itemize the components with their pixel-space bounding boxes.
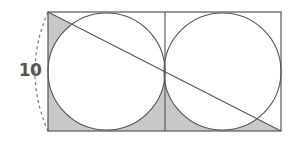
geometry-diagram: 10 bbox=[0, 0, 298, 146]
side-length-label: 10 bbox=[12, 60, 48, 80]
